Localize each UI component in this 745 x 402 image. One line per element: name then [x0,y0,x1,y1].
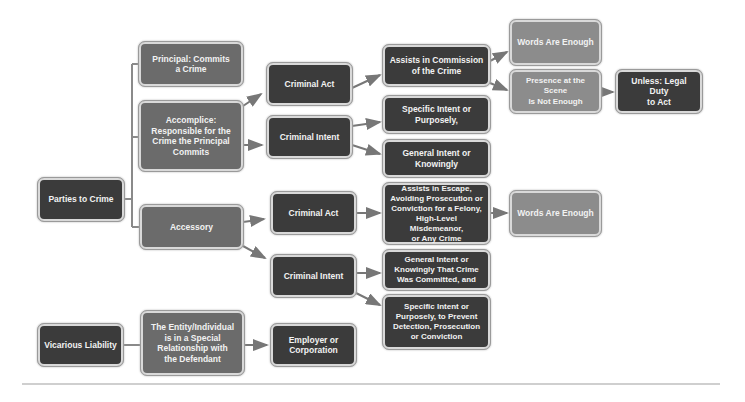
node-specific-intent-purposely: Specific Intent or Purposely, [383,96,490,133]
node-criminal-act-accessory: Criminal Act [271,192,356,234]
node-assists-commission: Assists in Commission of the Crime [383,45,490,86]
node-employer-corporation: Employer or Corporation [271,324,356,366]
node-criminal-intent-accessory: Criminal Intent [271,255,356,297]
node-presence-not-enough: Presence at the Scene Is Not Enough [510,70,601,113]
node-general-intent-knowingly-crime: General Intent or Knowingly That Crime W… [383,250,490,290]
node-special-relationship: The Entity/Individual is in a Special Re… [141,311,244,375]
node-accessory: Accessory [140,205,243,249]
bottom-divider [22,383,720,385]
node-assists-escape: Assists in Escape, Avoiding Prosecution … [383,183,490,244]
node-general-intent-knowingly: General Intent or Knowingly [383,140,490,177]
node-principal: Principal: Commits a Crime [139,42,243,86]
node-parties-to-crime: Parties to Crime [38,178,124,221]
node-unless-legal-duty: Unless: Legal Duty to Act [616,70,702,113]
node-vicarious-liability: Vicarious Liability [38,324,123,366]
node-criminal-act-accomplice: Criminal Act [267,63,352,105]
node-words-are-enough-2: Words Are Enough [510,191,601,236]
node-specific-intent-prevent: Specific Intent or Purposely, to Prevent… [383,295,490,349]
node-criminal-intent-accomplice: Criminal Intent [267,116,352,158]
node-words-are-enough-1: Words Are Enough [510,20,601,65]
node-accomplice: Accomplice: Responsible for the Crime th… [139,101,243,171]
